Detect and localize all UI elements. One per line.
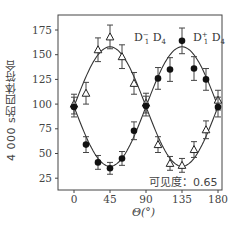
x-tick-label: 45 <box>103 193 116 205</box>
circle-marker <box>203 76 210 83</box>
circle-marker <box>119 155 126 162</box>
x-tick-label: 135 <box>172 193 192 205</box>
y-tick-label: 150 <box>32 48 52 60</box>
data-points <box>70 25 222 174</box>
series-label-d1-minus-d4: D−1 D4 <box>134 31 167 46</box>
y-tick-label: 100 <box>32 98 52 110</box>
triangle-marker <box>178 161 186 168</box>
circle-marker <box>215 104 222 111</box>
x-tick-label: 90 <box>139 193 152 205</box>
visibility-chart: 255075100125150175 04590135180 D−1 D4 D+… <box>0 0 252 237</box>
visibility-annotation: 可见度：0.65 <box>149 175 218 189</box>
series-label-d1-plus-d4: D+1 D4 <box>193 31 226 46</box>
circle-marker <box>179 38 186 45</box>
circle-marker <box>131 127 138 134</box>
y-tick-label: 125 <box>32 73 52 85</box>
circle-marker <box>191 65 198 72</box>
circle-marker <box>143 103 150 110</box>
circle-marker <box>95 159 102 166</box>
triangle-marker <box>190 146 198 153</box>
triangle-marker <box>82 89 90 96</box>
circle-marker <box>155 75 162 82</box>
y-tick-label: 25 <box>39 172 52 184</box>
circle-marker <box>71 104 78 111</box>
circle-marker <box>107 165 114 172</box>
y-axis: 255075100125150175 <box>32 24 58 184</box>
y-tick-label: 50 <box>39 147 52 159</box>
y-axis-label: 4 000 s的四体符合 <box>4 40 22 180</box>
x-tick-label: 0 <box>71 193 78 205</box>
x-tick-label: 180 <box>208 193 228 205</box>
y-tick-label: 75 <box>39 122 52 134</box>
triangle-marker <box>166 159 174 166</box>
triangle-marker <box>106 33 114 40</box>
triangle-marker <box>94 46 102 53</box>
x-axis: 04590135180 <box>71 190 228 205</box>
triangle-marker <box>118 53 126 60</box>
x-axis-label: Θ(°) <box>132 206 155 219</box>
circle-marker <box>83 141 90 148</box>
y-tick-label: 175 <box>32 24 52 36</box>
circle-marker <box>167 66 174 73</box>
